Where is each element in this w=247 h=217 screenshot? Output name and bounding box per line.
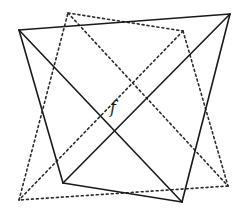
solid-diagonal-2 [63,14,230,183]
dotted-quadrilateral [19,13,228,200]
solid-edge-bottom [63,183,182,202]
center-label: f [109,98,119,117]
solid-edge-top [19,14,230,30]
solid-quadrilateral [19,14,230,202]
dotted-diagonal-1 [68,13,228,186]
diagram-canvas: f [0,0,247,217]
solid-edge-right [182,14,230,202]
